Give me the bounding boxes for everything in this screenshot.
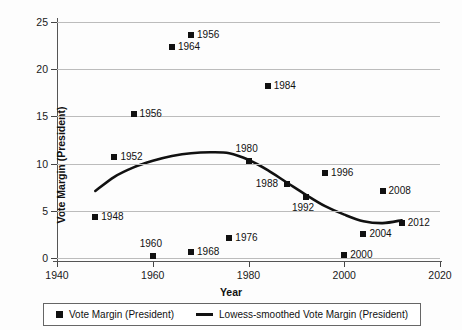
legend-label-vote-margin: Vote Margin (President)	[69, 309, 174, 320]
x-tick-label-2000: 2000	[333, 269, 356, 281]
gridline-y-25	[57, 22, 440, 23]
data-point-label: 1956	[197, 29, 219, 40]
data-point	[188, 32, 194, 38]
data-point-label: 1980	[236, 143, 258, 154]
data-point	[303, 194, 309, 200]
line-marker-icon	[196, 313, 213, 316]
data-point-label: 2008	[389, 185, 411, 196]
y-tick-label-15: 15	[36, 110, 48, 122]
x-tick-mark-2000	[344, 262, 345, 267]
data-point-label: 1952	[120, 151, 142, 162]
gridline-y-0	[57, 258, 440, 259]
data-point-label: 1984	[274, 80, 296, 91]
data-point	[188, 249, 194, 255]
chart-legend: Vote Margin (President) Lowess-smoothed …	[43, 303, 421, 326]
square-marker-icon	[56, 311, 63, 318]
y-tick-label-20: 20	[36, 63, 48, 75]
data-point	[131, 111, 137, 117]
data-point	[265, 83, 271, 89]
x-tick-mark-2020	[440, 262, 441, 267]
data-point-label: 1976	[235, 232, 257, 243]
data-point-label: 2004	[369, 228, 391, 239]
x-tick-label-2020: 2020	[428, 269, 451, 281]
y-tick-label-25: 25	[36, 16, 48, 28]
plot-area: 0510152025194819521956196019641956196819…	[57, 22, 440, 258]
x-tick-mark-1940	[57, 262, 58, 267]
data-point	[284, 181, 290, 187]
gridline-y-20	[57, 69, 440, 70]
data-point-label: 1988	[256, 178, 278, 189]
y-tick-mark-10	[51, 164, 57, 165]
data-point	[341, 252, 347, 258]
x-tick-label-1940: 1940	[45, 269, 68, 281]
data-point-label: 1968	[197, 246, 219, 257]
y-tick-mark-20	[51, 69, 57, 70]
x-axis-ticks: 19401960198020002020	[57, 262, 440, 286]
y-tick-mark-25	[51, 22, 57, 23]
data-point	[169, 44, 175, 50]
data-point-label: 1996	[331, 167, 353, 178]
x-tick-label-1960: 1960	[141, 269, 164, 281]
y-tick-label-10: 10	[36, 158, 48, 170]
data-point	[399, 220, 405, 226]
vote-margin-scatter-chart: Vote Margin (President) Year 05101520251…	[0, 0, 462, 330]
data-point-label: 1992	[292, 202, 314, 213]
data-point-label: 1960	[140, 238, 162, 249]
data-point-label: 2012	[408, 217, 430, 228]
lowess-smoothed-curve	[57, 22, 440, 258]
x-axis-title: Year	[0, 286, 462, 298]
data-point	[150, 253, 156, 259]
data-point	[226, 235, 232, 241]
x-tick-mark-1960	[153, 262, 154, 267]
y-tick-label-5: 5	[42, 205, 48, 217]
data-point	[322, 170, 328, 176]
legend-item-vote-margin: Vote Margin (President)	[56, 309, 174, 320]
data-point	[111, 154, 117, 160]
y-tick-label-0: 0	[42, 252, 48, 264]
x-tick-mark-1980	[249, 262, 250, 267]
x-tick-label-1980: 1980	[237, 269, 260, 281]
data-point	[360, 231, 366, 237]
data-point	[246, 158, 252, 164]
legend-label-lowess: Lowess-smoothed Vote Margin (President)	[219, 309, 408, 320]
data-point-label: 2000	[350, 249, 372, 260]
data-point-label: 1956	[140, 108, 162, 119]
legend-item-lowess: Lowess-smoothed Vote Margin (President)	[196, 309, 408, 320]
y-tick-mark-15	[51, 116, 57, 117]
y-tick-mark-0	[51, 258, 57, 259]
gridline-y-15	[57, 116, 440, 117]
data-point-label: 1948	[101, 211, 123, 222]
data-point	[92, 214, 98, 220]
data-point-label: 1964	[178, 41, 200, 52]
y-tick-mark-5	[51, 211, 57, 212]
data-point	[380, 188, 386, 194]
